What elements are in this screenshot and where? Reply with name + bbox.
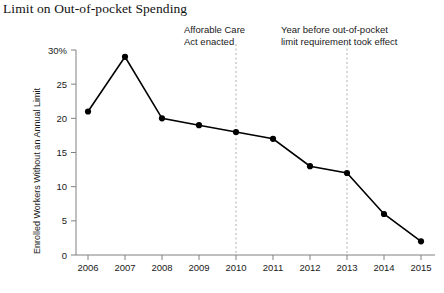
x-tick-label: 2011 [263, 262, 283, 273]
data-point-2014 [381, 211, 387, 217]
y-axis-title: Enrolled Workers Without an Annual Limit [32, 88, 42, 254]
data-point-2012 [307, 163, 313, 169]
figure-container: Limit on Out-of-pocket Spending Afforabl… [0, 0, 444, 293]
y-tick-label: 5 [62, 215, 67, 226]
y-tick-label: 10 [56, 181, 67, 192]
data-point-2008 [159, 115, 165, 121]
x-tick-label: 2009 [188, 262, 209, 273]
x-tick-label: 2007 [114, 262, 135, 273]
y-tick-label: 0 [62, 250, 67, 261]
x-tick-label: 2010 [225, 262, 246, 273]
y-axis: 051015202530% [48, 45, 76, 261]
x-tick-label: 2015 [410, 262, 431, 273]
data-point-2006 [85, 108, 91, 114]
x-tick-label: 2006 [77, 262, 98, 273]
annotation-vertical-lines [236, 44, 347, 255]
data-point-2011 [270, 136, 276, 142]
data-point-2013 [344, 170, 350, 176]
data-point-2009 [196, 122, 202, 128]
y-tick-label: 20 [56, 113, 67, 124]
series-line [88, 57, 421, 242]
y-tick-label: 15 [56, 147, 67, 158]
y-tick-label: 30% [48, 45, 68, 56]
data-point-2015 [418, 238, 424, 244]
x-axis: 2006200720082009201020112012201320142015 [76, 255, 435, 273]
data-point-2007 [122, 54, 128, 60]
data-series [85, 54, 424, 245]
x-tick-label: 2012 [299, 262, 320, 273]
data-point-2010 [233, 129, 239, 135]
x-tick-label: 2008 [151, 262, 172, 273]
x-tick-label: 2014 [373, 262, 394, 273]
line-chart-plot: 051015202530% 20062007200820092010201120… [0, 0, 444, 293]
x-tick-label: 2013 [336, 262, 357, 273]
y-tick-label: 25 [56, 79, 67, 90]
